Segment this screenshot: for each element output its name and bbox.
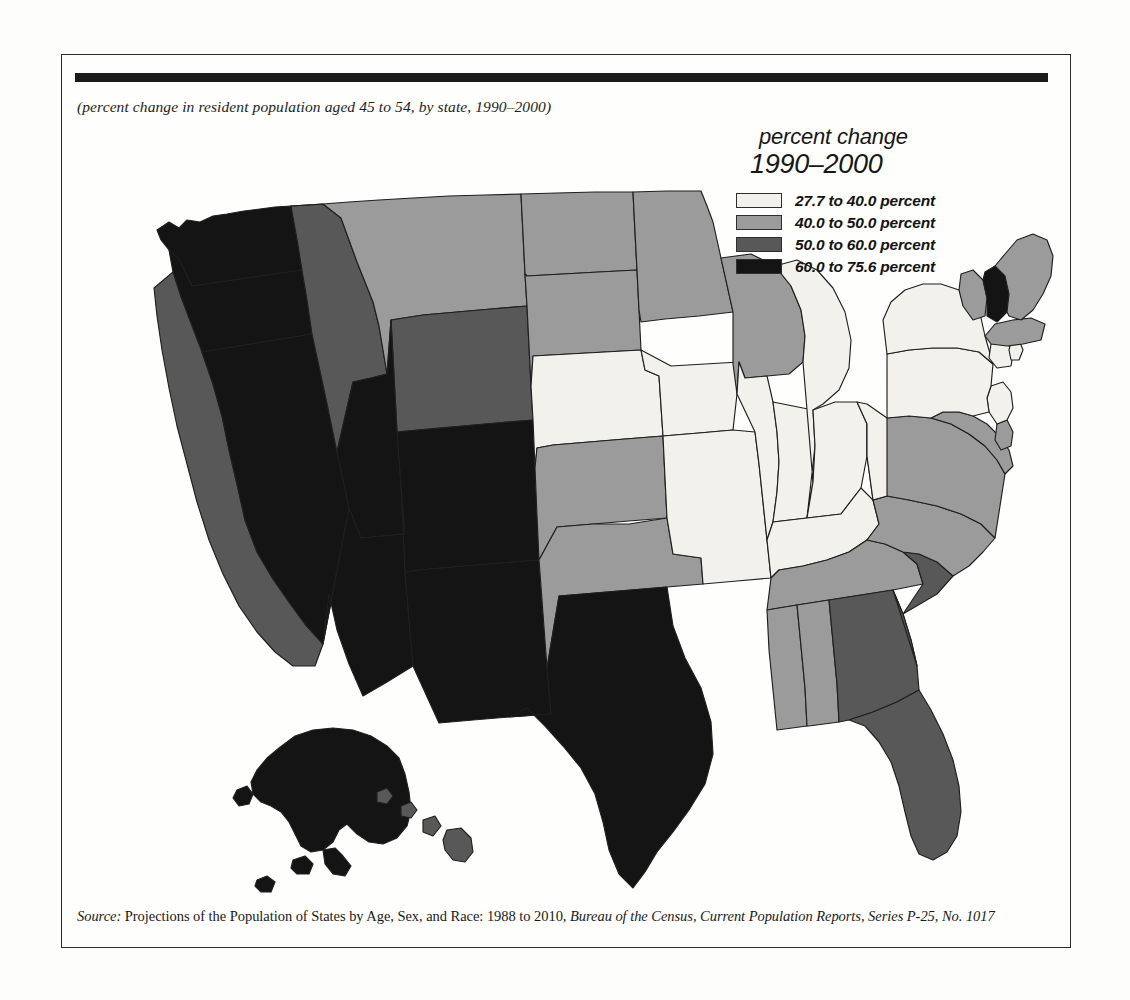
legend-label-class-1: 40.0 to 50.0 percent bbox=[795, 214, 935, 232]
legend-entries: 27.7 to 40.0 percent 40.0 to 50.0 percen… bbox=[736, 192, 1036, 275]
legend-swatch-class-0 bbox=[736, 193, 782, 208]
figure-root: (percent change in resident population a… bbox=[0, 0, 1130, 1000]
legend-title: percent change 1990–2000 bbox=[736, 126, 1036, 178]
legend-entry: 60.0 to 75.6 percent bbox=[736, 258, 1036, 275]
legend-entry: 40.0 to 50.0 percent bbox=[736, 214, 1036, 231]
legend-swatch-class-3 bbox=[736, 259, 782, 274]
map-legend: percent change 1990–2000 27.7 to 40.0 pe… bbox=[736, 126, 1036, 280]
legend-entry: 27.7 to 40.0 percent bbox=[736, 192, 1036, 209]
legend-entry: 50.0 to 60.0 percent bbox=[736, 236, 1036, 253]
legend-title-line2: 1990–2000 bbox=[736, 151, 1036, 178]
legend-swatch-class-1 bbox=[736, 215, 782, 230]
source-label: Source: bbox=[77, 908, 121, 924]
legend-title-line1: percent change bbox=[736, 126, 1036, 148]
source-text-1: Projections of the Population of States … bbox=[121, 908, 570, 924]
top-rule-divider bbox=[75, 73, 1048, 82]
source-note: Source: Projections of the Population of… bbox=[77, 908, 995, 925]
legend-label-class-2: 50.0 to 60.0 percent bbox=[795, 236, 935, 254]
legend-label-class-3: 60.0 to 75.6 percent bbox=[795, 258, 935, 276]
figure-caption: (percent change in resident population a… bbox=[77, 98, 551, 116]
legend-swatch-class-2 bbox=[736, 237, 782, 252]
source-text-2: Bureau of the Census, Current Population… bbox=[570, 908, 995, 924]
legend-label-class-0: 27.7 to 40.0 percent bbox=[795, 192, 935, 210]
